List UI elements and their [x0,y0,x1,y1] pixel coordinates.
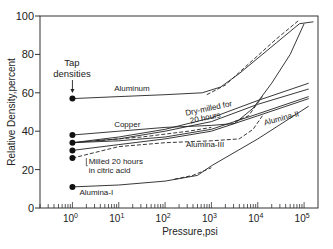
y-tick-label: 80 [22,48,34,60]
citric-leader [86,158,87,166]
tap-label-line2: densities [53,68,91,79]
y-tick-label: 0 [28,202,34,214]
tap-label-line1: Tap [64,57,79,68]
y-tick-label: 40 [22,125,34,137]
chart: 020406080100100101102103104105 AluminumD… [0,0,333,249]
tap-density-point [69,140,75,146]
annotation-label: Milled 20 hours [89,157,143,166]
series-aluminum-compacted [207,20,300,95]
y-tick-label: 100 [16,10,34,22]
annotation-label: in citric acid [89,166,131,175]
tap-density-point [69,155,75,161]
annotation-label: Alumina-I [79,188,113,197]
tap-density-point [69,96,75,102]
x-tick-label: 103 [202,212,217,224]
annotation-label: Alumina-III [186,140,224,149]
series-aluminum [72,22,313,99]
annotations: AluminumDry-milled for20 hoursCopperAlum… [79,84,300,197]
y-tick-label: 60 [22,87,34,99]
tap-arrow-head [70,89,74,93]
x-tick-label: 100 [63,212,78,224]
y-tick-label: 20 [22,164,34,176]
tap-density-point [69,184,75,190]
x-tick-label: 101 [109,212,124,224]
tap-density-point [69,132,75,138]
tap-density-point [69,147,75,153]
tap-density-points [69,80,75,190]
annotation-label: Copper [114,120,141,129]
y-axis-label: Relative Density,percent [6,58,17,166]
annotation-label: Aluminum [114,84,150,93]
x-axis-label: Pressure,psi [162,226,218,237]
x-tick-label: 102 [156,212,171,224]
x-tick-label: 105 [295,212,310,224]
x-tick-label: 104 [248,212,263,224]
plot-frame [40,16,318,208]
